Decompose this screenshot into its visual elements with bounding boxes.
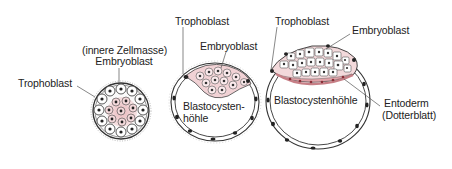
entoderm-label: Entoderm: [384, 97, 429, 109]
cavity-label-late: Blastocystenhöhle: [274, 94, 358, 106]
cavity-label-early-line1: Blastocysten-: [183, 100, 245, 112]
trophoblast-label-morula: Trophoblast: [18, 77, 72, 89]
cavity-label-early-line2: höhle: [183, 112, 208, 124]
embryoblast-label-morula: Embryoblast: [82, 55, 166, 67]
trophoblast-label-early: Trophoblast: [175, 15, 229, 27]
morula-figure: [77, 68, 151, 141]
embryoblast-label-late: Embryoblast: [352, 24, 409, 36]
blastocyst-development-diagram: (innere Zellmasse) Embryoblast Trophobla…: [0, 0, 452, 169]
trophoblast-label-late: Trophoblast: [275, 15, 329, 27]
embryoblast-label-early: Embryoblast: [200, 40, 257, 52]
dotterblatt-label: (Dotterblatt): [382, 109, 436, 121]
late-blastocyst-figure: [266, 27, 380, 150]
